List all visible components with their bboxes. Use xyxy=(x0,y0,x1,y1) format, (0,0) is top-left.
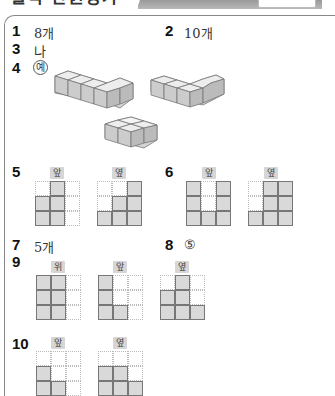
view-label-side: 옆 xyxy=(264,167,278,179)
view-grid-side xyxy=(98,351,143,396)
filled-cell xyxy=(190,305,205,320)
empty-cell xyxy=(66,381,81,396)
empty-cell xyxy=(190,275,205,290)
empty-cell xyxy=(51,351,66,366)
filled-cell xyxy=(35,211,50,226)
empty-cell xyxy=(113,275,128,290)
empty-cell xyxy=(128,366,143,381)
view-label-side: 옆 xyxy=(113,337,127,349)
view-grid-front xyxy=(186,181,231,226)
view-label-front: 앞 xyxy=(50,167,64,179)
filled-cell xyxy=(98,275,113,290)
cube-figure-1 xyxy=(50,68,140,118)
example-mark: 예 xyxy=(33,60,48,75)
filled-cell xyxy=(98,305,113,320)
empty-cell xyxy=(65,211,80,226)
filled-cell xyxy=(36,366,51,381)
question-number: 6 xyxy=(165,163,173,180)
view-grid-side xyxy=(160,275,205,320)
empty-cell xyxy=(112,181,127,196)
filled-cell xyxy=(113,305,128,320)
empty-cell xyxy=(128,275,143,290)
view-grid-side xyxy=(97,181,142,226)
view-grid-top xyxy=(36,275,81,320)
empty-cell xyxy=(65,181,80,196)
filled-cell xyxy=(98,366,113,381)
empty-cell xyxy=(113,351,128,366)
empty-cell xyxy=(97,196,112,211)
filled-cell xyxy=(127,196,142,211)
answer-text: 8개 xyxy=(34,23,54,42)
view-grid-side xyxy=(248,181,293,226)
filled-cell xyxy=(186,181,201,196)
answer-text: 10개 xyxy=(184,23,213,42)
empty-cell xyxy=(190,290,205,305)
empty-cell xyxy=(98,351,113,366)
filled-cell xyxy=(98,290,113,305)
empty-cell xyxy=(66,366,81,381)
cube-figure-2 xyxy=(148,72,228,117)
view-label-side: 옆 xyxy=(175,261,189,273)
filled-cell xyxy=(51,381,66,396)
filled-cell xyxy=(216,181,231,196)
question-number: 4 xyxy=(12,59,20,76)
empty-cell xyxy=(248,181,263,196)
filled-cell xyxy=(51,290,66,305)
filled-cell xyxy=(278,196,293,211)
answer-text: 5개 xyxy=(34,237,54,256)
question-number: 1 xyxy=(12,22,20,39)
view-grid-front xyxy=(35,181,80,226)
filled-cell xyxy=(50,211,65,226)
empty-cell xyxy=(201,181,216,196)
empty-cell xyxy=(113,290,128,305)
filled-cell xyxy=(175,290,190,305)
empty-cell xyxy=(66,305,81,320)
empty-cell xyxy=(248,196,263,211)
filled-cell xyxy=(175,275,190,290)
answer-text: ⑤ xyxy=(184,237,196,252)
question-number: 7 xyxy=(12,236,20,253)
view-label-top: 위 xyxy=(51,261,65,273)
filled-cell xyxy=(263,181,278,196)
answer-text: 나 xyxy=(34,41,46,60)
filled-cell xyxy=(113,381,128,396)
view-label-front: 앞 xyxy=(113,261,127,273)
question-number: 9 xyxy=(12,253,20,270)
filled-cell xyxy=(98,381,113,396)
cube-figure-3 xyxy=(102,116,164,156)
empty-cell xyxy=(65,196,80,211)
filled-cell xyxy=(112,211,127,226)
question-number: 5 xyxy=(12,163,20,180)
view-grid-front xyxy=(98,275,143,320)
filled-cell xyxy=(160,290,175,305)
filled-cell xyxy=(51,305,66,320)
filled-cell xyxy=(50,181,65,196)
view-label-side: 옆 xyxy=(112,167,126,179)
empty-cell xyxy=(128,305,143,320)
filled-cell xyxy=(201,211,216,226)
view-grid-front xyxy=(36,351,81,396)
empty-cell xyxy=(66,275,81,290)
empty-cell xyxy=(160,275,175,290)
filled-cell xyxy=(186,211,201,226)
filled-cell xyxy=(36,305,51,320)
view-label-front: 앞 xyxy=(202,167,216,179)
filled-cell xyxy=(263,196,278,211)
filled-cell xyxy=(127,211,142,226)
filled-cell xyxy=(216,196,231,211)
empty-cell xyxy=(36,351,51,366)
empty-cell xyxy=(201,196,216,211)
header-box xyxy=(258,0,316,8)
filled-cell xyxy=(97,211,112,226)
empty-cell xyxy=(66,290,81,305)
filled-cell xyxy=(127,181,142,196)
header: 실력 단원평가 xyxy=(0,0,322,12)
filled-cell xyxy=(35,196,50,211)
filled-cell xyxy=(50,196,65,211)
header-tab: 실력 단원평가 xyxy=(0,0,140,12)
empty-cell xyxy=(97,181,112,196)
filled-cell xyxy=(278,181,293,196)
filled-cell xyxy=(113,366,128,381)
filled-cell xyxy=(248,211,263,226)
filled-cell xyxy=(186,196,201,211)
